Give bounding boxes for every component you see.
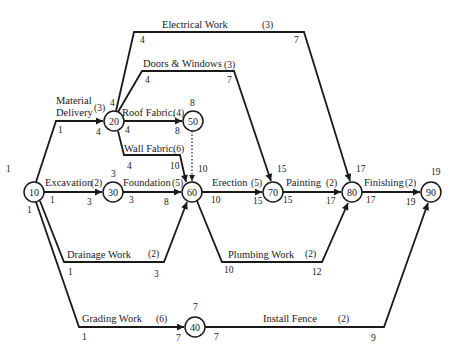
node-10-bottom-time: 1 [27, 205, 32, 215]
activity-start-plumbing-work: 10 [224, 265, 234, 275]
activity-duration-drainage-work: (2) [148, 249, 159, 260]
activity-start-excavation: 1 [50, 195, 55, 205]
activity-label-plumbing-work: Plumbing Work [228, 249, 295, 260]
activity-duration-plumbing-work: (2) [305, 249, 316, 260]
activity-end-wall-fabric: 10 [170, 161, 180, 171]
activity-label-drainage-work: Drainage Work [67, 249, 132, 260]
node-80-top-time: 17 [356, 164, 366, 174]
activity-duration-painting: (2) [326, 178, 337, 189]
node-40-top-time: 7 [193, 302, 198, 312]
activity-end-doors-windows: 7 [227, 75, 232, 85]
activity-start-material-delivery: 1 [58, 125, 63, 135]
activity-label-grading-work: Grading Work [82, 313, 143, 324]
activity-end-electrical-work: 7 [294, 35, 299, 45]
activity-label-material-delivery-1: Material [56, 95, 92, 106]
svg-text:20: 20 [109, 116, 119, 127]
activity-end-material-delivery: 4 [96, 127, 101, 137]
activity-duration-erection: (5) [251, 178, 262, 189]
svg-text:60: 60 [187, 187, 197, 198]
activity-label-doors-windows: Doors & Windows [143, 58, 222, 69]
activity-end-excavation: 3 [87, 197, 92, 207]
activity-start-electrical-work: 4 [140, 35, 145, 45]
activity-start-wall-fabric: 4 [127, 161, 132, 171]
edge-wall-fabric [118, 131, 186, 182]
edge-grading-work [36, 202, 184, 327]
node-50: 50 [183, 111, 203, 131]
node-30: 30 [103, 182, 123, 202]
activity-start-doors-windows: 4 [145, 75, 150, 85]
activity-start-erection: 10 [211, 195, 221, 205]
node-90: 90 [421, 182, 441, 202]
activity-start-finishing: 17 [366, 195, 376, 205]
activity-duration-electrical-work: (3) [262, 20, 273, 31]
activity-duration-grading-work: (6) [156, 314, 167, 325]
activity-label-material-delivery-2: Delivery [56, 107, 93, 118]
node-70-top-time: 15 [277, 164, 287, 174]
activity-end-foundation: 8 [164, 197, 169, 207]
activity-label-finishing: Finishing [364, 177, 404, 188]
activity-end-painting: 17 [326, 196, 336, 206]
activity-end-install-fence: 9 [371, 333, 376, 343]
network-diagram: 10 20 30 40 50 60 70 80 90 1 1 3 7 8 10 … [0, 0, 464, 364]
activity-end-roof-fabric: 8 [175, 126, 180, 136]
activity-end-plumbing-work: 12 [312, 267, 322, 277]
svg-text:70: 70 [268, 187, 278, 198]
activity-duration-finishing: (2) [405, 178, 416, 189]
node-20: 20 [104, 111, 124, 131]
activity-label-install-fence: Install Fence [263, 313, 317, 324]
activity-label-excavation: Excavation [45, 177, 93, 188]
activity-end-finishing: 19 [406, 197, 416, 207]
node-90-top-time: 19 [431, 167, 441, 177]
activity-start-painting: 15 [283, 195, 293, 205]
activity-start-foundation: 3 [129, 195, 134, 205]
svg-text:50: 50 [188, 116, 198, 127]
node-10-top-time: 1 [6, 164, 11, 174]
activity-start-roof-fabric: 4 [125, 125, 130, 135]
activity-label-painting: Painting [286, 177, 322, 188]
activity-end-grading-work: 7 [176, 333, 181, 343]
activity-duration-install-fence: (2) [338, 314, 349, 325]
activity-from-mark-electrical-work: 4 [110, 98, 115, 108]
activity-end-erection: 15 [253, 196, 263, 206]
node-60: 60 [182, 182, 202, 202]
svg-text:40: 40 [190, 322, 200, 333]
node-10: 10 [24, 182, 44, 202]
edge-material-delivery [36, 121, 103, 182]
svg-text:30: 30 [108, 187, 118, 198]
activity-label-wall-fabric: Wall Fabric. [124, 143, 176, 154]
node-60-top-time: 10 [198, 164, 208, 174]
activity-start-grading-work: 1 [82, 332, 87, 342]
node-30-top-time: 3 [111, 169, 116, 179]
node-70: 70 [263, 182, 283, 202]
svg-text:90: 90 [426, 187, 436, 198]
activity-label-roof-fabric: Roof Fabric. [122, 107, 175, 118]
activity-duration-foundation: (5) [172, 178, 183, 189]
activity-duration-wall-fabric: (6) [173, 144, 184, 155]
activity-duration-roof-fabric: (4) [173, 108, 184, 119]
activity-duration-material-delivery: (3) [94, 103, 105, 114]
activity-label-electrical-work: Electrical Work [162, 19, 228, 30]
activity-end-drainage-work: 3 [154, 269, 159, 279]
node-50-top-time: 8 [190, 98, 195, 108]
node-40: 40 [185, 317, 205, 337]
svg-text:80: 80 [347, 187, 357, 198]
activity-duration-excavation: (2) [91, 178, 102, 189]
svg-text:10: 10 [29, 187, 39, 198]
node-80: 80 [342, 182, 362, 202]
activity-label-foundation: Foundation [123, 177, 172, 188]
edge-install-fence [205, 203, 428, 327]
activity-start-drainage-work: 1 [68, 267, 73, 277]
activity-label-erection: Erection [212, 177, 248, 188]
activity-start-install-fence: 7 [214, 332, 219, 342]
activity-duration-doors-windows: (3) [224, 60, 235, 71]
